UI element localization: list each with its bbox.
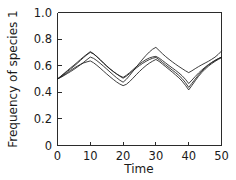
x-tick-label: 20 — [116, 149, 131, 163]
line-chart: 00.20.40.60.81.0 01020304050 Frequency o… — [0, 0, 236, 180]
x-tick-label: 30 — [149, 149, 164, 163]
series-line-replicate-2 — [58, 52, 222, 88]
data-series-group — [58, 47, 222, 90]
x-tick-label: 10 — [83, 149, 98, 163]
y-tick-label: 1.0 — [34, 6, 52, 20]
x-tick-label: 50 — [214, 149, 229, 163]
y-tick-label: 0 — [45, 139, 52, 153]
y-tick-label: 0.6 — [34, 59, 52, 73]
y-axis-tick-labels: 00.20.40.60.81.0 — [34, 6, 52, 153]
x-axis-title: Time — [123, 162, 153, 176]
y-tick-label: 0.8 — [34, 32, 52, 46]
y-axis-title: Frequency of species 1 — [6, 10, 20, 147]
x-tick-label: 0 — [54, 149, 61, 163]
x-axis-tick-labels: 01020304050 — [54, 149, 229, 163]
x-tick-label: 40 — [181, 149, 196, 163]
chart-figure: 00.20.40.60.81.0 01020304050 Frequency o… — [0, 0, 236, 180]
y-tick-label: 0.2 — [34, 112, 52, 126]
y-tick-label: 0.4 — [34, 85, 52, 99]
